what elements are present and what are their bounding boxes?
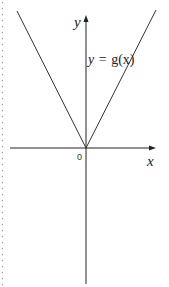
graph-left-branch <box>17 11 86 148</box>
y-axis-label: y <box>72 14 81 30</box>
x-axis-label: x <box>146 153 154 169</box>
function-label-rhs: g(x) <box>111 52 135 68</box>
function-label: y = g(x) <box>86 52 135 68</box>
function-label-eq: = <box>99 52 107 67</box>
graph-figure: y x 0 y = g(x) <box>0 0 169 287</box>
x-axis-arrow-icon <box>149 146 156 151</box>
function-label-lhs: y <box>86 52 95 67</box>
y-axis-arrow-icon <box>84 15 89 22</box>
graph-right-branch <box>86 10 156 148</box>
origin-label: 0 <box>77 152 82 162</box>
